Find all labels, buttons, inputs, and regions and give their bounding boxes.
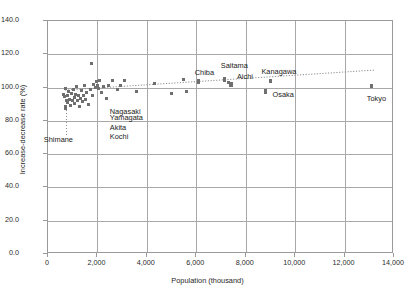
data-point-chiba	[197, 79, 200, 84]
data-point	[97, 87, 100, 90]
data-point	[105, 97, 108, 100]
data-point-aichi	[229, 82, 232, 87]
point-label-osaka: Osaka	[272, 91, 293, 99]
trend-line	[48, 21, 394, 254]
data-point	[111, 79, 114, 82]
point-label-aichi: Aichi	[237, 73, 253, 81]
data-point	[85, 91, 88, 94]
x-tick-label: 8,000	[225, 259, 265, 267]
data-point	[102, 85, 105, 88]
point-label-shimane: Shimane	[44, 136, 73, 144]
y-tick-label: 20.0	[5, 216, 19, 224]
y-tick-label: 0.0	[9, 249, 19, 257]
data-point	[107, 84, 110, 87]
data-point	[91, 94, 94, 97]
data-point	[78, 105, 81, 108]
data-point	[170, 92, 173, 95]
y-tick-label: 100.0	[1, 83, 19, 91]
y-tick-label: 120.0	[1, 49, 19, 57]
y-axis-title: Increase-decrease rate (%)	[18, 50, 27, 210]
annotation-akita: Akita	[110, 124, 126, 132]
data-point-osaka	[264, 89, 267, 94]
plot-area: ChibaSaitamaAichiKanagawaOsakaTokyoShima…	[47, 20, 393, 253]
y-tick-label: 140.0	[1, 16, 19, 24]
data-point	[100, 91, 103, 94]
x-tick-label: 6,000	[175, 259, 215, 267]
data-point	[69, 104, 72, 107]
data-point	[185, 90, 188, 93]
x-tick-label: 0	[27, 259, 67, 267]
data-point	[84, 98, 87, 101]
point-label-saitama: Saitama	[221, 62, 248, 70]
data-point	[123, 79, 126, 82]
x-tick-label: 12,000	[324, 259, 364, 267]
data-point	[89, 88, 92, 91]
point-label-tokyo: Tokyo	[367, 95, 386, 103]
data-point-saitama	[223, 77, 226, 82]
data-point	[75, 85, 78, 88]
data-point	[119, 84, 122, 87]
x-tick-label: 14,000	[373, 259, 413, 267]
x-tick-label: 2,000	[76, 259, 116, 267]
data-point	[135, 90, 138, 93]
x-tick-label: 4,000	[126, 259, 166, 267]
point-label-kanagawa: Kanagawa	[261, 68, 296, 76]
data-point-tokyo	[370, 84, 373, 89]
data-point	[182, 78, 185, 81]
annotation-yamagata: Yamagata	[110, 114, 143, 122]
scatter-chart: 0.020.040.060.080.0100.0120.0140.0 02,00…	[0, 0, 415, 294]
point-label-chiba: Chiba	[195, 69, 214, 77]
data-point	[116, 88, 119, 91]
data-point-kanagawa	[269, 79, 272, 84]
data-point	[87, 103, 90, 106]
data-point	[153, 82, 156, 85]
data-point	[70, 92, 73, 95]
data-point	[66, 94, 69, 97]
leader-line-shimane	[66, 110, 67, 136]
x-tick-label: 10,000	[274, 259, 314, 267]
data-point	[90, 62, 93, 65]
data-point	[80, 89, 83, 92]
data-point	[83, 84, 86, 87]
x-axis-title: Population (thousand)	[0, 276, 415, 285]
annotation-kochi: Kochi	[110, 133, 129, 141]
data-point	[98, 79, 101, 82]
